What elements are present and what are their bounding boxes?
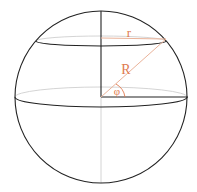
small-radius-label: r <box>127 25 132 40</box>
angle-label: φ <box>114 85 120 97</box>
sphere-diagram: r R φ <box>0 0 197 192</box>
big-radius-label: R <box>121 62 131 77</box>
big-radius-line <box>101 39 166 97</box>
